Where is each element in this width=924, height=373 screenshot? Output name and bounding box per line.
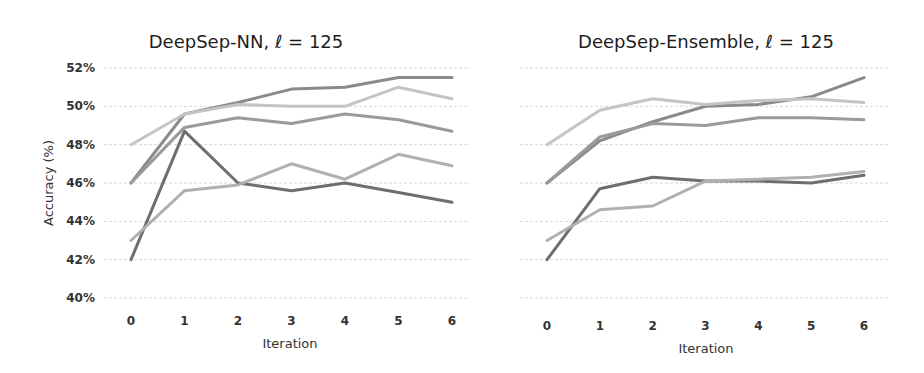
chart-panel-deepsep-nn: DeepSep-NN, ℓ = 125 40%42%44%46%48%50%52… — [41, 31, 470, 351]
line-series-3 — [131, 114, 452, 183]
x-tick-label: 6 — [860, 319, 868, 333]
x-tick-label: 0 — [543, 319, 551, 333]
y-axis-ticks: 40%42%44%46%48%50%52% — [66, 61, 95, 305]
x-tick-label: 4 — [754, 319, 762, 333]
line-series-5 — [131, 154, 452, 240]
line-series-3 — [547, 118, 864, 183]
series-lines — [131, 78, 452, 260]
line-series-2 — [131, 87, 452, 145]
x-tick-label: 1 — [180, 314, 188, 328]
x-tick-label: 3 — [287, 314, 295, 328]
chart-panel-deepsep-ensemble: DeepSep-Ensemble, ℓ = 125 0123456 Iterat… — [520, 31, 890, 356]
x-tick-label: 5 — [394, 314, 402, 328]
x-tick-label: 0 — [127, 314, 135, 328]
y-tick-label: 46% — [66, 176, 95, 190]
line-series-4 — [547, 175, 864, 259]
y-tick-label: 44% — [66, 214, 95, 228]
x-axis-label: Iteration — [678, 341, 733, 356]
y-tick-label: 40% — [66, 291, 95, 305]
chart-title: DeepSep-NN, ℓ = 125 — [149, 31, 344, 52]
y-axis-label: Accuracy (%) — [41, 140, 56, 226]
line-series-1 — [131, 78, 452, 183]
x-tick-label: 4 — [341, 314, 349, 328]
gridlines — [104, 68, 470, 298]
x-tick-label: 2 — [648, 319, 656, 333]
series-lines — [547, 78, 864, 260]
line-series-2 — [547, 99, 864, 145]
line-series-1 — [547, 78, 864, 183]
x-tick-label: 6 — [448, 314, 456, 328]
y-tick-label: 50% — [66, 99, 95, 113]
y-tick-label: 52% — [66, 61, 95, 75]
x-axis-ticks: 0123456 — [543, 319, 868, 333]
x-tick-label: 1 — [596, 319, 604, 333]
x-tick-label: 2 — [234, 314, 242, 328]
y-tick-label: 48% — [66, 138, 95, 152]
x-axis-label: Iteration — [262, 336, 317, 351]
y-tick-label: 42% — [66, 253, 95, 267]
x-axis-ticks: 0123456 — [127, 314, 456, 328]
chart-title: DeepSep-Ensemble, ℓ = 125 — [578, 31, 834, 52]
x-tick-label: 5 — [807, 319, 815, 333]
chart-figure: DeepSep-NN, ℓ = 125 40%42%44%46%48%50%52… — [0, 0, 924, 373]
x-tick-label: 3 — [701, 319, 709, 333]
gridlines — [520, 68, 890, 298]
